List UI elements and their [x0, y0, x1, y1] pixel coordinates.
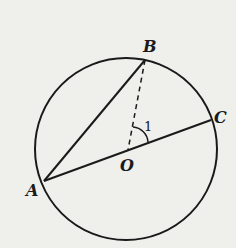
- label-c: C: [214, 108, 227, 127]
- circle-o: [35, 58, 217, 240]
- label-b: B: [142, 37, 157, 56]
- label-o: O: [120, 156, 134, 175]
- radius-ob-dashed: [128, 60, 145, 150]
- label-a: A: [24, 181, 38, 200]
- circle-diagram: B C A O 1: [0, 0, 236, 248]
- label-angle-1: 1: [144, 119, 152, 134]
